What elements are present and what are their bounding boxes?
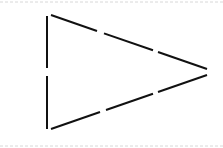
- bottom-edge-segment: [158, 75, 207, 92]
- top-edge-segment: [51, 15, 97, 31]
- triangle-diagram: [0, 0, 223, 148]
- top-edge-segment: [104, 33, 153, 50]
- triangle-shape: [47, 15, 207, 129]
- top-edge-segment: [158, 52, 207, 69]
- bottom-edge-segment: [106, 94, 153, 110]
- bottom-edge-segment: [51, 112, 100, 129]
